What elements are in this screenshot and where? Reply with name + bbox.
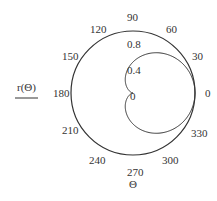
angle-tick-60: 60	[166, 23, 178, 35]
angle-tick-0: 0	[205, 87, 211, 99]
angle-tick-120: 120	[90, 23, 107, 35]
radial-tick-0.4: 0.4	[127, 64, 141, 76]
radial-tick-0: 0	[130, 90, 136, 102]
legend-label: r(Θ)	[17, 81, 36, 94]
polar-plot: 0 30 60 90 120 150 180 210 240 270 300 3…	[0, 0, 217, 201]
x-axis-label: Θ	[129, 178, 137, 190]
angle-tick-150: 150	[62, 50, 79, 62]
angle-tick-300: 300	[162, 154, 179, 166]
angle-tick-30: 30	[192, 50, 204, 62]
radial-tick-0.8: 0.8	[127, 38, 141, 50]
angle-tick-180: 180	[53, 87, 70, 99]
angle-tick-240: 240	[89, 154, 106, 166]
angle-tick-90: 90	[127, 11, 139, 23]
angle-tick-270: 270	[127, 166, 144, 178]
angle-tick-210: 210	[62, 124, 79, 136]
legend: r(Θ)	[15, 81, 38, 98]
angle-tick-330: 330	[191, 127, 208, 139]
radial-tick-labels: 0 0.4 0.8	[127, 38, 141, 102]
